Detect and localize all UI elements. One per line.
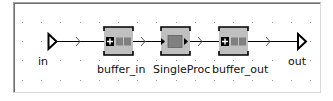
singleproc-label: SingleProc [153,64,210,76]
in-port-label: in [38,56,48,68]
buffer-out-label: buffer_out [212,64,268,76]
in-port-icon[interactable] [49,34,57,49]
buffer-in-label: buffer_in [97,64,145,76]
buffer-out-block[interactable] [219,27,248,55]
singleproc-block[interactable] [161,27,190,55]
out-port-icon[interactable] [298,34,306,49]
diagram-svg [0,0,333,101]
buffer-in-block[interactable] [104,27,133,55]
out-port-label: out [288,56,306,68]
